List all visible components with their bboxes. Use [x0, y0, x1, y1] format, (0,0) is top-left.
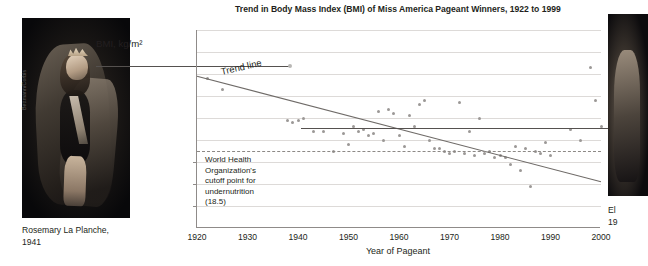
who-cutoff-annotation: World Health Organization's cutoff point…: [205, 155, 279, 208]
x-tick-label: 1990: [529, 232, 573, 242]
second-pageant-winner-photo: [608, 14, 648, 196]
right-photo-leader-line: [301, 128, 621, 129]
who-note-line-4: (18.5): [205, 197, 279, 208]
x-tick-label: 1920: [175, 232, 219, 242]
x-tick-label: 1950: [327, 232, 371, 242]
who-note-line-2: cutoff point for: [205, 176, 279, 187]
who-cutoff-line: [197, 151, 601, 152]
right-photo-figure-shape: [614, 50, 640, 182]
x-tick-label: 1940: [276, 232, 320, 242]
right-photo-caption-line2: 19: [608, 216, 648, 228]
x-tick-label: 1980: [478, 232, 522, 242]
x-tick-label: 1930: [226, 232, 270, 242]
right-photo-caption: El 19: [608, 204, 648, 228]
right-photo-caption-line1: El: [608, 204, 648, 216]
who-note-line-0: World Health: [205, 155, 279, 166]
who-note-line-1: Organization's: [205, 166, 279, 177]
x-tick-label: 1970: [428, 232, 472, 242]
x-axis-title: Year of Pageant: [196, 246, 600, 256]
right-photo-figure: El 19: [608, 14, 648, 264]
x-tick-label: 1960: [377, 232, 421, 242]
plot-area: 15161718192021222324 1920193019401950196…: [196, 30, 600, 228]
who-note-line-3: undernutrition: [205, 187, 279, 198]
chart-title: Trend in Body Mass Index (BMI) of Miss A…: [196, 4, 600, 14]
